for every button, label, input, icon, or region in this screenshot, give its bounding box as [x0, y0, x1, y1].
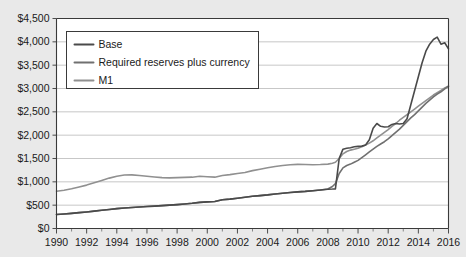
- xtick-label-2014: 2014: [407, 236, 431, 248]
- xtick-label-1996: 1996: [135, 236, 159, 248]
- ytick-label-3000: $3,000: [17, 82, 49, 94]
- chart-svg: $0$500$1,000$1,500$2,000$2,500$3,000$3,5…: [0, 0, 466, 257]
- xtick-label-2002: 2002: [226, 236, 250, 248]
- xtick-label-2000: 2000: [196, 236, 220, 248]
- ytick-label-2500: $2,500: [17, 105, 49, 117]
- legend-label-1: Required reserves plus currency: [99, 56, 251, 68]
- xtick-label-2012: 2012: [377, 236, 401, 248]
- money-aggregates-chart: $0$500$1,000$1,500$2,000$2,500$3,000$3,5…: [0, 0, 466, 257]
- xtick-label-2004: 2004: [256, 236, 280, 248]
- xtick-label-2006: 2006: [286, 236, 310, 248]
- ytick-label-4500: $4,500: [17, 12, 49, 24]
- legend-label-2: M1: [99, 74, 114, 86]
- ytick-label-3500: $3,500: [17, 59, 49, 71]
- xtick-label-2016: 2016: [437, 236, 461, 248]
- xtick-label-1998: 1998: [165, 236, 189, 248]
- xtick-label-1994: 1994: [105, 236, 129, 248]
- ytick-label-4000: $4,000: [17, 35, 49, 47]
- ytick-label-0: $0: [38, 222, 50, 234]
- ytick-label-500: $500: [26, 199, 50, 211]
- xtick-label-2008: 2008: [316, 236, 340, 248]
- ytick-label-1000: $1,000: [17, 175, 49, 187]
- xtick-label-1992: 1992: [75, 236, 99, 248]
- ytick-label-1500: $1,500: [17, 152, 49, 164]
- ytick-label-2000: $2,000: [17, 129, 49, 141]
- xtick-label-2010: 2010: [346, 236, 370, 248]
- xtick-label-1990: 1990: [45, 236, 69, 248]
- legend-label-0: Base: [99, 38, 123, 50]
